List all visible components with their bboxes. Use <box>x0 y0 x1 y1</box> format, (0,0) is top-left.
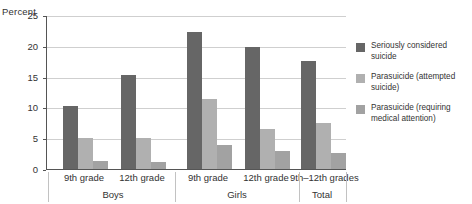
bar <box>245 47 260 169</box>
x-group-label: Total <box>277 189 367 200</box>
x-group-label: Girls <box>192 189 282 200</box>
bar <box>78 138 93 169</box>
bar <box>260 129 275 169</box>
legend-label: Parasuicide (attempted suicide) <box>371 72 468 93</box>
group-separator <box>175 172 176 202</box>
y-tick-mark <box>43 16 46 17</box>
legend-label: Seriously considered suicide <box>371 41 468 62</box>
plot-area: 2520151050 <box>46 16 346 170</box>
y-tick-mark <box>43 170 46 171</box>
x-group-label: Boys <box>68 189 158 200</box>
chart-legend: Seriously considered suicideParasuicide … <box>356 42 468 128</box>
bar <box>187 32 202 169</box>
group-separator <box>299 172 300 202</box>
bars-layer <box>47 16 346 169</box>
y-tick-label: 20 <box>4 41 38 52</box>
y-tick-label: 10 <box>4 102 38 113</box>
y-tick-label: 5 <box>4 133 38 144</box>
group-separator <box>346 172 347 202</box>
bar-chart-figure: Percent 2520151050 9th grade12th grade9t… <box>0 0 472 204</box>
bar <box>331 153 346 169</box>
y-tick-label: 15 <box>4 72 38 83</box>
bar <box>202 99 217 169</box>
bar <box>121 75 136 169</box>
bar <box>136 138 151 169</box>
group-separator <box>48 172 49 202</box>
y-tick-mark <box>43 47 46 48</box>
bar <box>275 151 290 169</box>
y-tick-label: 25 <box>4 10 38 21</box>
y-tick-mark <box>43 108 46 109</box>
bar <box>301 61 316 169</box>
legend-label: Parasuicide (requiring medical attention… <box>371 103 468 124</box>
y-tick-label: 0 <box>4 164 38 175</box>
y-tick-mark <box>43 139 46 140</box>
legend-swatch <box>356 74 365 83</box>
bar <box>217 145 232 170</box>
x-tick-label: 12th grade <box>234 172 298 183</box>
x-tick-label: 9th grade <box>176 172 240 183</box>
bar <box>151 162 166 169</box>
bar <box>316 123 331 170</box>
x-axis-labels: 9th grade12th grade9th grade12th grade9t… <box>46 172 346 204</box>
x-axis-line <box>46 169 346 170</box>
bar <box>63 106 78 169</box>
bar <box>93 161 108 169</box>
x-tick-label: 12th grade <box>110 172 174 183</box>
y-tick-mark <box>43 78 46 79</box>
x-tick-label: 9th grade <box>52 172 116 183</box>
legend-swatch <box>356 105 365 114</box>
legend-swatch <box>356 43 365 52</box>
